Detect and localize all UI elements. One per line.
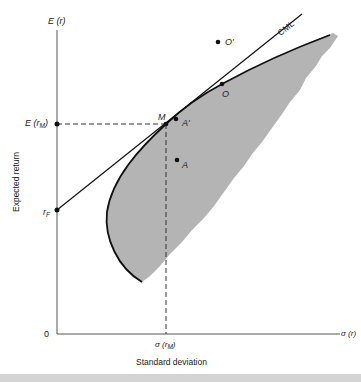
point-erm: [55, 122, 60, 127]
point-a: [175, 158, 180, 163]
diagram-canvas: [0, 0, 361, 382]
point-o-label: O: [222, 90, 229, 99]
y-axis-top-label: E (r): [48, 17, 66, 26]
point-a-label: A: [182, 161, 188, 170]
cml-diagram: E (r) CML E (rM) rF M A' A O O' 0 σ (r) …: [0, 0, 361, 382]
point-oprime: [216, 40, 221, 45]
rf-label: rF: [43, 208, 50, 219]
feasible-set-region: [107, 33, 338, 282]
point-m-label: M: [158, 113, 166, 122]
point-m: [164, 122, 169, 127]
x-axis-title: Standard deviation: [136, 358, 207, 367]
point-o: [220, 82, 225, 87]
point-rf: [55, 208, 60, 213]
bottom-band: [0, 374, 361, 382]
x-axis-end-label: σ (r): [341, 330, 356, 338]
point-oprime-label: O': [225, 38, 234, 47]
point-aprime-label: A': [182, 119, 190, 128]
point-aprime: [174, 117, 179, 122]
origin-label: 0: [44, 330, 49, 339]
y-axis-title: Expected return: [11, 152, 21, 212]
sigm-label: σ (rM): [155, 341, 175, 351]
erm-label: E (rM): [25, 119, 48, 130]
